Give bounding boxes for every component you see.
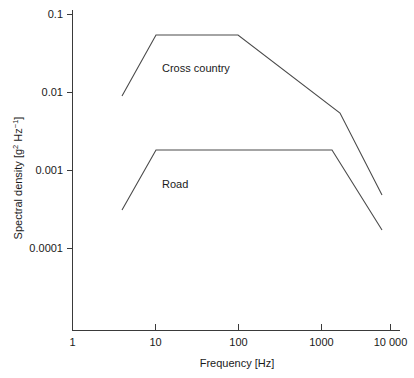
- y-tick-label-1: 0.01: [42, 86, 63, 98]
- x-axis-title: Frequency [Hz]: [200, 357, 275, 369]
- y-axis-title-group: Spectral density [g2 Hz−1]: [11, 117, 24, 240]
- y-axis-title-end: ]: [12, 117, 24, 120]
- series-line-road: [122, 150, 382, 230]
- y-tick-label-0: 0.1: [48, 8, 63, 20]
- series-line-cross-country: [122, 35, 382, 195]
- y-axis-title: Spectral density [g2 Hz−1]: [11, 117, 24, 240]
- x-tick-label-4: 10 000: [374, 336, 408, 348]
- y-axis-title-mid: Hz: [12, 128, 24, 145]
- x-tick-label-3: 1000: [309, 336, 333, 348]
- y-tick-label-2: 0.001: [35, 164, 63, 176]
- x-tick-label-1: 10: [149, 336, 161, 348]
- series-label-cross-country: Cross country: [162, 62, 230, 74]
- series-label-road: Road: [162, 178, 188, 190]
- spectral-density-chart: 0.1 0.01 0.001 0.0001 1 10 100 1000 10 0…: [0, 0, 414, 378]
- x-tick-label-0: 1: [69, 336, 75, 348]
- chart-canvas: 0.1 0.01 0.001 0.0001 1 10 100 1000 10 0…: [0, 0, 414, 378]
- x-tick-label-2: 100: [229, 336, 247, 348]
- y-axis-title-sup-minus-one: −1: [11, 120, 20, 129]
- y-axis-title-main: Spectral density [g: [12, 149, 24, 240]
- y-tick-label-3: 0.0001: [29, 242, 63, 254]
